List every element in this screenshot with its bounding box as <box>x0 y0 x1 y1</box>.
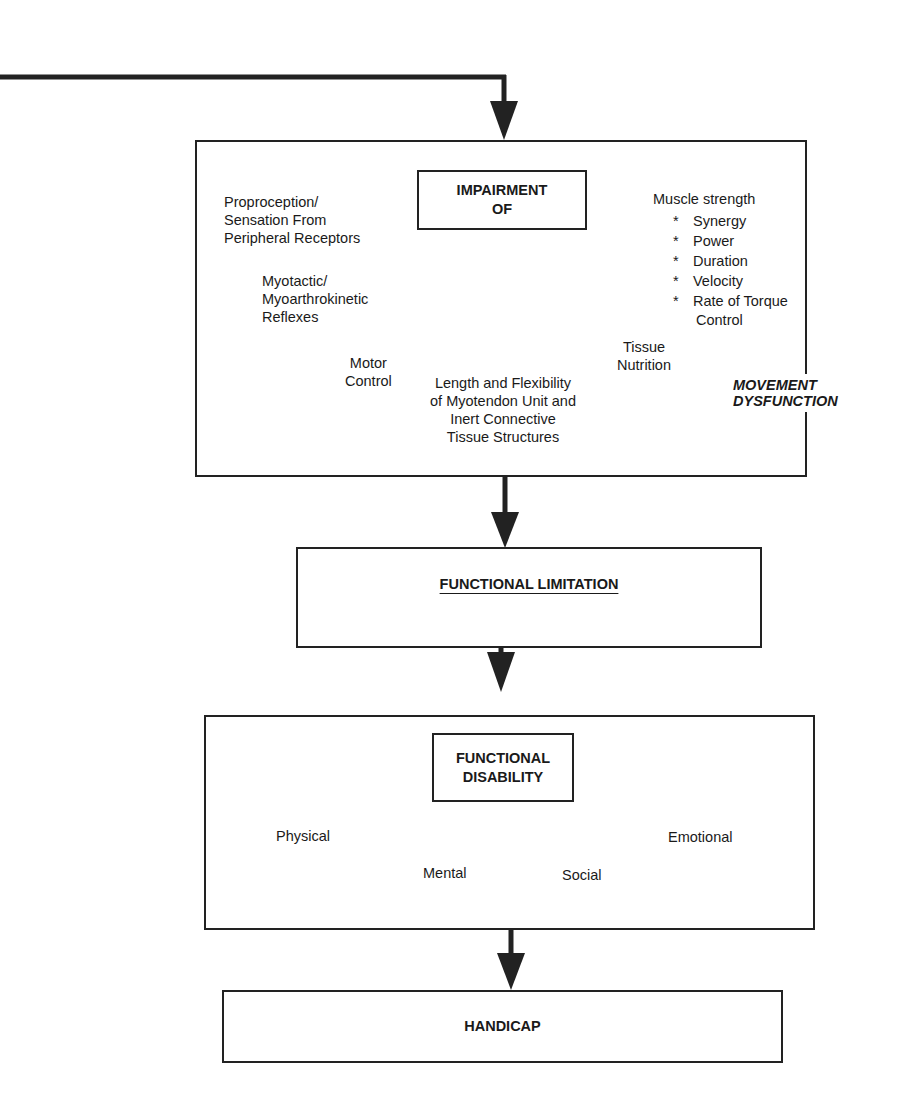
handicap-title: HANDICAP <box>224 1017 781 1036</box>
handicap-box: HANDICAP <box>222 990 783 1063</box>
physical-label: Physical <box>276 827 330 845</box>
functional-disability-center-box: FUNCTIONAL DISABILITY <box>432 733 574 802</box>
muscle-strength-list: Synergy Power Duration Velocity Rate of … <box>671 211 788 311</box>
muscle-strength-label: Muscle strength Synergy Power Duration V… <box>653 190 788 329</box>
tissue-nutrition-label: Tissue Nutrition <box>617 338 671 374</box>
impairment-of-box: IMPAIRMENT OF <box>417 170 587 230</box>
emotional-label: Emotional <box>668 828 732 846</box>
functional-limitation-title: FUNCTIONAL LIMITATION <box>298 575 760 594</box>
list-item: Power <box>671 231 788 251</box>
list-item: Rate of Torque <box>671 291 788 311</box>
incoming-flow-arrow <box>0 75 518 140</box>
list-item: Velocity <box>671 271 788 291</box>
muscle-strength-continuation: Control <box>696 311 788 329</box>
list-item: Duration <box>671 251 788 271</box>
list-item: Synergy <box>671 211 788 231</box>
length-flexibility-label: Length and Flexibility of Myotendon Unit… <box>415 374 591 446</box>
muscle-strength-title: Muscle strength <box>653 190 788 208</box>
social-label: Social <box>562 866 602 884</box>
impairment-of-label: OF <box>419 200 585 219</box>
arrow-to-functional-limitation <box>491 476 519 548</box>
reflexes-label: Myotactic/ Myoarthrokinetic Reflexes <box>262 272 368 326</box>
motor-control-label: Motor Control <box>345 354 392 390</box>
movement-dysfunction-label: MOVEMENT DYSFUNCTION <box>731 374 840 412</box>
impairment-title: IMPAIRMENT <box>419 181 585 200</box>
proprioception-label: Proproception/ Sensation From Peripheral… <box>224 193 360 247</box>
mental-label: Mental <box>423 864 467 882</box>
functional-limitation-box: FUNCTIONAL LIMITATION <box>296 547 762 648</box>
functional-disability-title: FUNCTIONAL <box>434 749 572 768</box>
functional-disability-subtitle: DISABILITY <box>434 768 572 787</box>
arrow-to-handicap <box>497 928 525 990</box>
